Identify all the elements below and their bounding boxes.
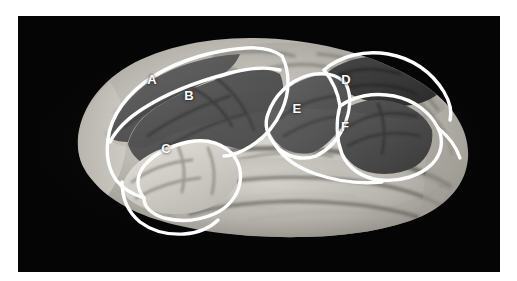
region-label-A: A (147, 73, 157, 86)
brain-photograph-plate: A B C D E F (18, 16, 500, 272)
brain-lateral-view-image (18, 16, 500, 272)
region-label-C: C (161, 142, 171, 155)
region-label-F: F (341, 120, 349, 133)
region-label-D: D (341, 73, 351, 86)
figure-root: A B C D E F (0, 0, 517, 281)
region-label-B: B (184, 89, 194, 102)
region-label-E: E (293, 102, 302, 115)
